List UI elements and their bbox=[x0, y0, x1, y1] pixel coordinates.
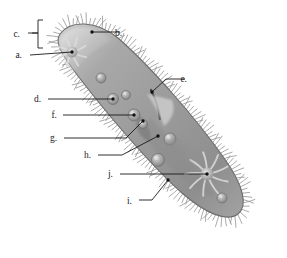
cilium bbox=[149, 164, 153, 170]
cilium bbox=[96, 18, 101, 26]
cilium bbox=[205, 211, 206, 222]
cilium bbox=[226, 155, 230, 161]
cilium bbox=[135, 152, 142, 154]
figure-canvas: a.b.c.d.e.f.g.h.i.j. bbox=[0, 0, 287, 258]
cilium bbox=[93, 102, 99, 105]
cilium bbox=[223, 152, 233, 156]
cilium bbox=[102, 16, 103, 29]
food-vacuole-highlight bbox=[166, 135, 170, 139]
leader-endpoint-j bbox=[205, 172, 208, 175]
label-j: j. bbox=[107, 169, 113, 179]
cilium bbox=[233, 168, 244, 172]
food-vacuole-highlight bbox=[98, 75, 101, 78]
cilium bbox=[194, 206, 198, 213]
cilium bbox=[145, 58, 151, 63]
cilium bbox=[207, 132, 213, 135]
cilium bbox=[54, 50, 60, 52]
cilium bbox=[84, 90, 89, 94]
cilium bbox=[201, 120, 207, 128]
cilium bbox=[151, 171, 159, 176]
label-d: d. bbox=[34, 94, 41, 104]
cilium bbox=[105, 23, 106, 30]
leader-endpoint-h bbox=[156, 134, 159, 137]
leader-endpoint-f bbox=[132, 113, 135, 116]
cilium bbox=[228, 158, 233, 164]
food-vacuole-highlight bbox=[219, 195, 222, 198]
food-vacuole bbox=[122, 91, 131, 100]
cilium bbox=[159, 176, 164, 181]
cilium bbox=[81, 14, 83, 25]
label-e: e. bbox=[180, 74, 187, 84]
cilium bbox=[191, 109, 198, 115]
cilium bbox=[108, 123, 116, 128]
cilium bbox=[238, 214, 242, 224]
food-vacuole bbox=[152, 154, 165, 167]
cilium bbox=[182, 196, 186, 203]
cilium bbox=[188, 106, 193, 112]
food-vacuole-highlight bbox=[123, 92, 126, 95]
food-vacuole-highlight bbox=[154, 156, 158, 160]
cilium bbox=[131, 46, 136, 50]
cilium bbox=[198, 207, 201, 213]
cilium bbox=[126, 37, 132, 46]
cilium bbox=[221, 149, 229, 153]
cilium bbox=[58, 23, 64, 30]
cilia-bracket bbox=[32, 20, 43, 48]
cilium bbox=[137, 157, 146, 163]
cilium bbox=[154, 67, 157, 73]
cilium bbox=[170, 187, 176, 191]
cilium bbox=[197, 120, 204, 122]
cilium bbox=[209, 134, 217, 137]
cilium bbox=[80, 87, 87, 91]
cilium bbox=[145, 162, 150, 168]
cilium bbox=[201, 209, 204, 221]
cilium bbox=[221, 216, 222, 227]
cilium bbox=[74, 77, 78, 82]
cilium bbox=[215, 216, 218, 227]
paramecium-diagram: a.b.c.d.e.f.g.h.i.j. bbox=[0, 0, 287, 258]
label-f: f. bbox=[51, 110, 57, 120]
cilium bbox=[224, 156, 236, 159]
cilium bbox=[158, 71, 164, 78]
cilium bbox=[178, 95, 185, 99]
food-vacuole bbox=[217, 193, 227, 203]
label-c: c. bbox=[13, 29, 20, 39]
cilium bbox=[90, 18, 91, 24]
cilium bbox=[235, 174, 242, 176]
cilium bbox=[225, 217, 226, 226]
leader-endpoint-b bbox=[90, 30, 93, 33]
label-h: h. bbox=[84, 150, 91, 160]
cilium bbox=[241, 188, 247, 190]
leader-endpoint-a bbox=[70, 50, 73, 53]
label-i: i. bbox=[127, 196, 132, 206]
cilium bbox=[195, 115, 206, 120]
cilium bbox=[219, 146, 225, 151]
cilium bbox=[165, 82, 171, 85]
cilium bbox=[133, 48, 140, 52]
cilium bbox=[217, 143, 222, 148]
cilium bbox=[67, 72, 74, 77]
leader-endpoint-i bbox=[166, 178, 169, 181]
cilium bbox=[104, 120, 114, 125]
cilium bbox=[149, 63, 159, 68]
cilium bbox=[240, 212, 247, 218]
cilium bbox=[189, 204, 195, 211]
leader-endpoint-d bbox=[111, 97, 114, 100]
cilium bbox=[186, 104, 190, 110]
cilium bbox=[68, 15, 71, 27]
cilium bbox=[142, 56, 146, 61]
cilium bbox=[63, 18, 68, 27]
cilium bbox=[232, 164, 241, 169]
cilium bbox=[115, 127, 119, 132]
cilium bbox=[106, 115, 109, 121]
cilium bbox=[125, 140, 130, 144]
cilium bbox=[76, 15, 80, 24]
food-vacuole bbox=[96, 73, 106, 83]
cilium bbox=[112, 125, 118, 130]
cilium bbox=[242, 192, 250, 193]
cilium bbox=[47, 36, 59, 37]
cilium bbox=[108, 24, 111, 31]
cilium bbox=[235, 216, 236, 228]
label-a: a. bbox=[15, 50, 22, 60]
cilium bbox=[193, 111, 202, 117]
